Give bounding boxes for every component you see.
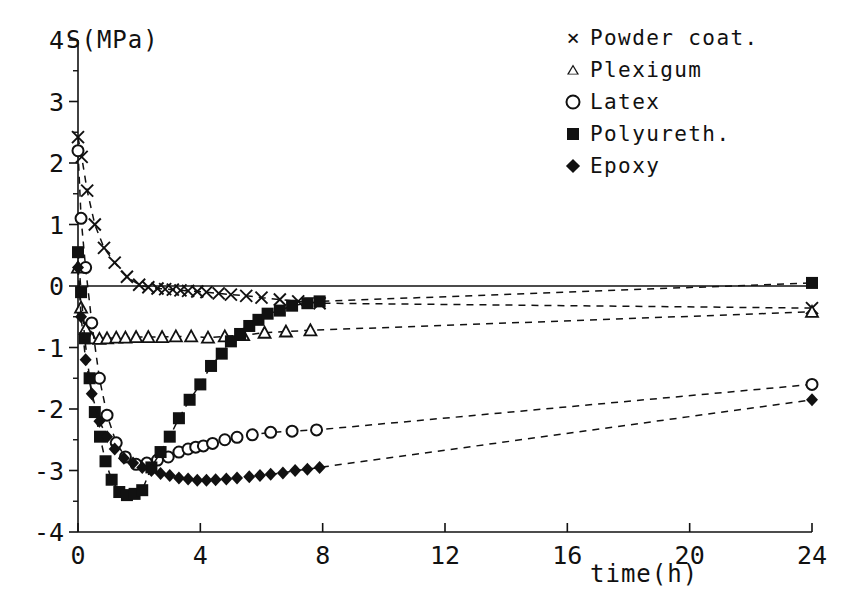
legend-label: Powder coat. <box>590 26 759 50</box>
svg-text:3: 3 <box>49 88 64 117</box>
svg-text:24: 24 <box>797 541 827 570</box>
svg-text:0: 0 <box>49 272 64 301</box>
triangle-marker-icon <box>556 59 590 81</box>
svg-text:8: 8 <box>315 541 330 570</box>
circle-marker-icon <box>556 91 590 113</box>
legend-label: Epoxy <box>590 154 660 178</box>
svg-text:1: 1 <box>49 211 64 240</box>
diamond-marker-icon <box>556 155 590 177</box>
svg-text:2: 2 <box>49 149 64 178</box>
legend-item-plexigum: Plexigum <box>556 54 856 86</box>
svg-text:-1: -1 <box>34 334 64 363</box>
svg-text:12: 12 <box>430 541 460 570</box>
svg-text:0: 0 <box>70 541 85 570</box>
legend-label: Plexigum <box>590 58 702 82</box>
svg-text:4: 4 <box>49 26 64 55</box>
legend-item-latex: Latex <box>556 86 856 118</box>
data-series-group <box>72 131 818 501</box>
svg-text:-2: -2 <box>34 395 64 424</box>
svg-text:16: 16 <box>552 541 582 570</box>
legend-label: Polyureth. <box>590 122 730 146</box>
x-axis-title: time(h) <box>590 560 698 588</box>
svg-text:-4: -4 <box>34 518 64 547</box>
legend-item-polyurethane: Polyureth. <box>556 118 856 150</box>
legend-item-epoxy: Epoxy <box>556 150 856 182</box>
x-marker-icon <box>556 27 590 49</box>
chart-figure: -4-3-2-10123404812162024 S(MPa) time(h) … <box>0 0 857 607</box>
legend-item-powder-coat: Powder coat. <box>556 22 856 54</box>
chart-legend: Powder coat. Plexigum Latex Polyureth. E… <box>556 22 856 182</box>
y-axis-title: S(MPa) <box>66 26 159 54</box>
legend-label: Latex <box>590 90 660 114</box>
square-marker-icon <box>556 123 590 145</box>
svg-text:4: 4 <box>193 541 208 570</box>
svg-text:-3: -3 <box>34 457 64 486</box>
